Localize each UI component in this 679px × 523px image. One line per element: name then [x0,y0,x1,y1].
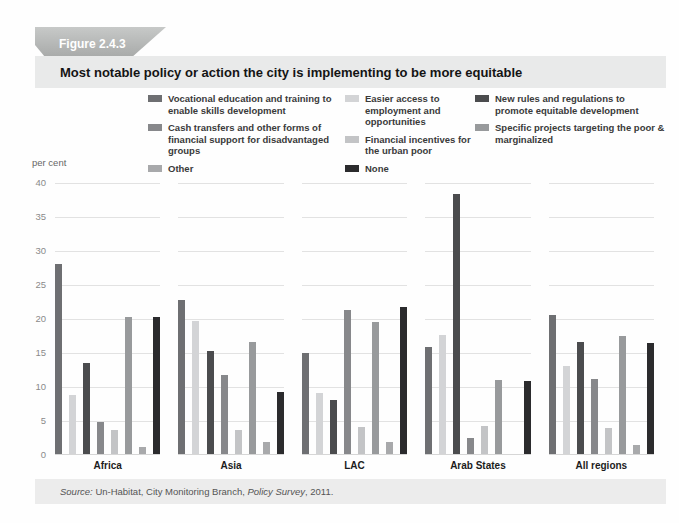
figure-title-band: Most notable policy or action the city i… [35,56,666,88]
legend-label: Cash transfers and other forms of financ… [168,122,338,157]
bar [481,426,488,454]
bar [563,366,570,454]
bar [221,375,228,454]
y-tick-label: 25 [24,279,46,291]
legend-swatch-icon [345,136,359,143]
y-tick-label: 40 [24,177,46,189]
category-group: All regions [549,183,654,455]
legend-label: Financial incentives for the urban poor [365,134,475,157]
category-label: Arab States [425,460,530,471]
bar [549,315,556,454]
bar [178,300,185,454]
bar [386,442,393,454]
legend-label: None [365,163,389,175]
bar [344,310,351,454]
bar [400,307,407,454]
legend-swatch-icon [148,124,162,131]
bar [55,264,62,454]
figure-label-tab: Figure 2.4.3 [35,27,166,56]
bar [577,342,584,454]
category-group: Arab States [425,183,530,455]
bar [97,422,104,454]
y-axis-unit-label: per cent [32,157,66,168]
source-note: Source: Un-Habitat, City Monitoring Bran… [35,479,666,504]
bar [69,395,76,454]
bar [358,427,365,454]
y-tick-label: 15 [24,347,46,359]
category-group: LAC [302,183,407,455]
bar [111,430,118,454]
category-group: Asia [178,183,283,455]
legend-swatch-icon [345,95,359,102]
legend-label: Specific projects targeting the poor & m… [495,122,665,145]
legend-item: Cash transfers and other forms of financ… [148,122,338,157]
source-note-text: Un-Habitat, City Monitoring Branch, [93,486,248,497]
bar [633,445,640,454]
bar [139,447,146,454]
bar [330,400,337,454]
bar [425,347,432,454]
bar [207,351,214,454]
legend-column: New rules and regulations to promote equ… [475,93,665,151]
legend-swatch-icon [148,95,162,102]
y-tick-label: 35 [24,211,46,223]
bar [263,442,270,454]
y-tick-label: 10 [24,381,46,393]
bar [605,428,612,454]
bar [153,317,160,454]
legend-swatch-icon [475,95,489,102]
bar [316,393,323,454]
legend-item: Easier access to employment and opportun… [345,93,475,128]
legend-label: Easier access to employment and opportun… [365,93,475,128]
y-tick-label: 0 [24,449,46,461]
bar [302,353,309,454]
category-group: Africa [55,183,160,455]
bar [125,317,132,454]
legend-item: Vocational education and training to ena… [148,93,338,116]
legend-item: New rules and regulations to promote equ… [475,93,665,116]
source-note-text: Policy Survey [247,486,305,497]
y-tick-label: 20 [24,313,46,325]
bar [249,342,256,454]
category-label: LAC [302,460,407,471]
bar [591,379,598,454]
bar [372,322,379,454]
legend-swatch-icon [148,165,162,172]
legend-item: Specific projects targeting the poor & m… [475,122,665,145]
source-note-text: Source: [60,486,93,497]
bar [619,336,626,454]
bar [192,321,199,454]
bar [83,363,90,454]
legend-label: Other [168,163,193,175]
legend-label: Vocational education and training to ena… [168,93,338,116]
legend-swatch-icon [475,124,489,131]
source-note-text: , 2011. [305,486,333,497]
bar [235,430,242,454]
legend-item: None [345,163,475,175]
legend-item: Financial incentives for the urban poor [345,134,475,157]
y-tick-label: 5 [24,415,46,427]
legend-column: Vocational education and training to ena… [148,93,338,180]
plot-area: AfricaAsiaLACArab StatesAll regions [46,183,663,455]
figure-page: Figure 2.4.3 Most notable policy or acti… [0,0,679,523]
bar [524,381,531,454]
category-label: All regions [549,460,654,471]
legend-item: Other [148,163,338,175]
bar [439,335,446,454]
category-label: Africa [55,460,160,471]
legend-column: Easier access to employment and opportun… [345,93,475,180]
bar [277,392,284,454]
category-label: Asia [178,460,283,471]
legend-swatch-icon [345,165,359,172]
bar [467,438,474,454]
figure-title: Most notable policy or action the city i… [35,56,666,80]
bar [495,380,502,454]
y-tick-label: 30 [24,245,46,257]
figure-label: Figure 2.4.3 [59,37,126,51]
bar [647,343,654,454]
legend-label: New rules and regulations to promote equ… [495,93,665,116]
bar [453,194,460,454]
